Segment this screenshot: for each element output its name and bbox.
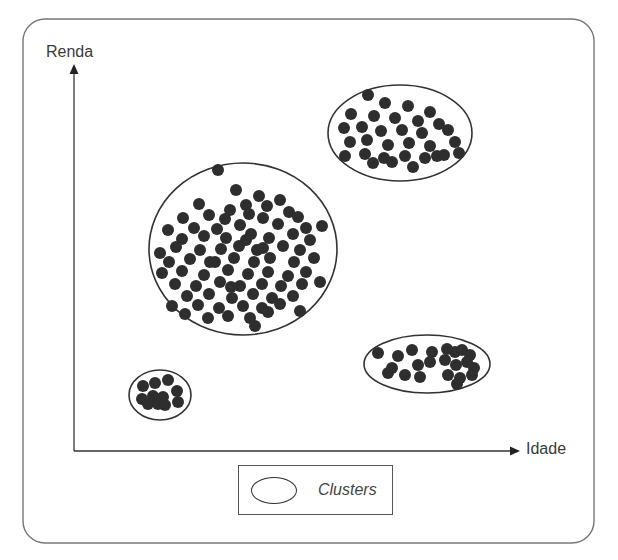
data-point [450,359,462,371]
data-point [209,256,221,268]
data-point [181,290,193,302]
cluster-lower-right [364,335,490,393]
data-point [172,396,184,408]
data-point [159,399,171,411]
data-point [194,244,206,256]
data-point [214,276,226,288]
data-point [368,110,380,122]
data-point [171,385,183,397]
data-point [170,241,182,253]
data-point [156,267,168,279]
data-point [300,222,312,234]
data-point [263,232,275,244]
data-point [277,240,289,252]
data-point [287,290,299,302]
data-point [308,252,320,264]
data-point [416,127,428,139]
data-point [192,299,204,311]
data-point [190,280,202,292]
data-point [248,256,260,268]
data-point [412,359,424,371]
data-point [294,244,306,256]
x-axis-arrowhead-icon [510,447,520,456]
data-point [338,122,350,134]
data-point [261,200,273,212]
data-point [399,369,411,381]
x-axis-label: Idade [526,440,566,458]
data-point [356,121,368,133]
data-point [162,224,174,236]
data-point [362,89,374,101]
data-point [253,190,265,202]
data-point [188,222,200,234]
data-point [403,137,415,149]
y-axis-label: Renda [46,43,93,61]
data-point [137,380,149,392]
data-point [184,253,196,265]
data-point [225,281,237,293]
data-point [154,247,166,259]
data-point [402,100,414,112]
data-point [386,156,398,168]
data-point [451,378,463,390]
data-point [424,140,436,152]
cluster-upper-right [328,85,472,181]
data-point [240,234,252,246]
data-point [392,350,404,362]
data-point [339,150,351,162]
data-point [213,302,225,314]
data-point [414,371,426,383]
data-point [359,148,371,160]
data-point [419,152,431,164]
data-point [211,223,223,235]
data-point [162,374,174,386]
data-point [382,367,394,379]
data-point [242,268,254,280]
data-point [212,164,224,176]
data-point [439,354,451,366]
data-point [288,256,300,268]
data-point [176,265,188,277]
data-point [292,211,304,223]
data-point [344,136,356,148]
data-point [396,124,408,136]
data-point [296,278,308,290]
clusters [129,85,490,420]
data-point [294,305,306,317]
data-point [163,256,175,268]
data-point [257,212,269,224]
data-point [166,300,178,312]
data-point [300,266,312,278]
data-point [220,232,232,244]
data-point [215,243,227,255]
data-point [382,139,394,151]
data-point [247,288,259,300]
data-point [203,209,215,221]
legend-label: Clusters [318,481,377,499]
data-point [243,208,255,220]
data-point [282,270,294,282]
data-point [407,161,419,173]
data-point [424,356,436,368]
data-point [389,112,401,124]
data-point [257,242,269,254]
legend-ellipse-icon [251,477,297,504]
data-point [262,306,274,318]
data-point [431,150,443,162]
data-point [272,218,284,230]
data-point [287,228,299,240]
data-point [304,234,316,246]
data-point [222,310,234,322]
data-point [453,147,465,159]
data-point [198,269,210,281]
data-point [274,298,286,310]
data-point [230,184,242,196]
data-point [179,308,191,320]
data-point [275,280,287,292]
data-point [226,292,238,304]
data-point [274,194,286,206]
data-point [426,346,438,358]
y-axis-arrowhead-icon [70,64,79,74]
data-point [361,134,373,146]
data-point [449,136,461,148]
